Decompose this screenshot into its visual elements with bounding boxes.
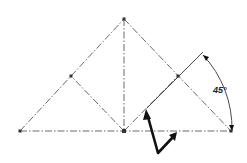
left-mid-node bbox=[70, 75, 73, 78]
apex-node bbox=[123, 18, 126, 21]
bottom-left-node bbox=[19, 130, 22, 133]
bottom-right-node bbox=[230, 130, 233, 133]
geometry-diagram: 45° bbox=[0, 0, 247, 163]
extension-line bbox=[147, 52, 203, 108]
angle-label: 45° bbox=[212, 85, 227, 95]
bottom-center-node bbox=[122, 129, 126, 133]
inner-left-line bbox=[71, 76, 124, 131]
right-mid-node bbox=[177, 75, 180, 78]
